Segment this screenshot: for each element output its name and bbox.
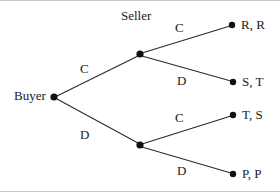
action-label-buyer-defect: D (80, 128, 89, 141)
action-label-seller-upper-defect: D (177, 74, 186, 87)
edge-seller-upper-defect (142, 56, 231, 81)
node-terminal-st (230, 79, 236, 85)
payoff-label-ts: T, S (242, 108, 263, 121)
game-tree-diagram: Buyer Seller C D C D C D R, R S, T T, S … (0, 0, 280, 195)
action-label-seller-upper-cooperate: C (175, 21, 184, 34)
node-buyer-root (50, 93, 57, 100)
node-terminal-pp (230, 171, 236, 177)
action-label-seller-lower-defect: D (177, 164, 186, 177)
action-label-buyer-cooperate: C (80, 62, 89, 75)
edge-buyer-defect (57, 99, 138, 143)
node-seller-upper (136, 50, 143, 57)
node-terminal-ts (230, 112, 236, 118)
player-label-buyer: Buyer (14, 89, 46, 102)
player-label-seller: Seller (121, 9, 151, 22)
action-label-seller-lower-cooperate: C (175, 111, 184, 124)
payoff-label-st: S, T (242, 75, 263, 88)
edge-seller-lower-cooperate (142, 116, 231, 144)
edge-seller-upper-cooperate (142, 26, 230, 53)
payoff-label-rr: R, R (241, 18, 265, 31)
node-seller-lower (136, 141, 143, 148)
edge-buyer-cooperate (57, 56, 138, 96)
payoff-label-pp: P, P (242, 167, 262, 180)
node-terminal-rr (229, 22, 235, 28)
edge-seller-lower-defect (142, 147, 231, 173)
